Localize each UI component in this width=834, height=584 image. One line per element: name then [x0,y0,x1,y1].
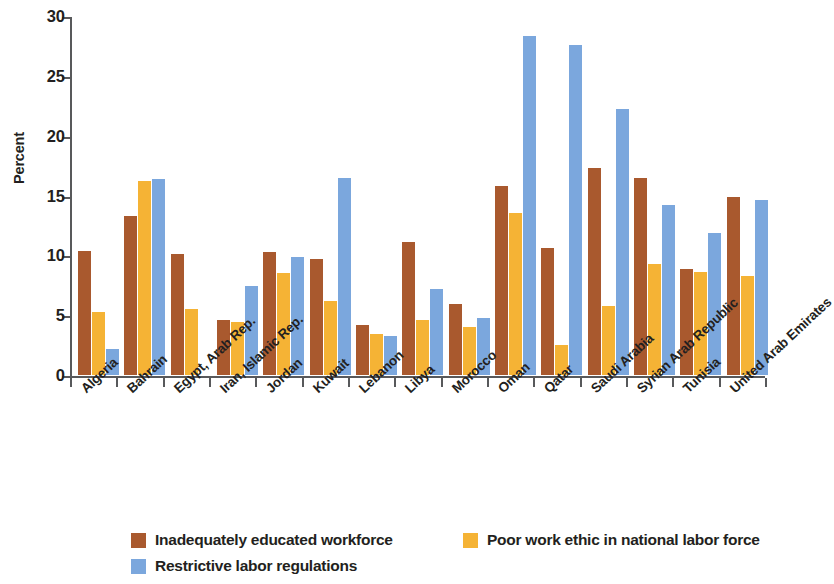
y-tick-label: 15 [47,186,65,206]
bar-group [634,16,675,375]
y-axis-line [70,17,72,377]
bar-group [310,16,351,375]
bar [449,304,462,375]
legend-item-restrictive-labor-regulations: Restrictive labor regulations [131,554,357,578]
bar [138,181,151,375]
bar [124,216,137,375]
bar-group [402,16,443,375]
legend-row: Restrictive labor regulations [131,554,765,578]
y-tick-label: 10 [47,245,65,265]
bar-group [495,16,536,375]
legend-swatch-icon [131,559,146,574]
legend-label: Poor work ethic in national labor force [487,531,760,549]
bar [338,178,351,375]
bar-group [78,16,119,375]
bar-group [356,16,397,375]
bar-group [449,16,490,375]
bar [152,179,165,375]
legend-label: Restrictive labor regulations [155,557,357,575]
bar-group [171,16,212,375]
bar [588,168,601,375]
bar [569,45,582,375]
bar-group [541,16,582,375]
bar [356,325,369,375]
x-axis-labels: AlgeriaBahrainEgypt, Arab Rep.Iran, Isla… [70,377,765,517]
bar [495,186,508,375]
legend-label: Inadequately educated workforce [155,531,393,549]
bar [310,259,323,375]
bar [648,264,661,375]
y-tick-label: 0 [56,365,65,385]
bar-group [727,16,768,375]
bar [541,248,554,375]
legend-swatch-icon [463,533,478,548]
bar-group [588,16,629,375]
y-tick-label: 25 [47,66,65,86]
bar [402,242,415,375]
y-tick-label: 5 [56,305,65,325]
legend-item-poor-work-ethic: Poor work ethic in national labor force [463,528,760,552]
legend-row: Inadequately educated workforce Poor wor… [131,528,765,552]
bar-group [124,16,165,375]
bar [171,254,184,375]
y-tick-label: 30 [47,6,65,26]
bar [509,213,522,375]
bar [78,251,91,375]
legend-swatch-icon [131,533,146,548]
y-tick-label: 20 [47,126,65,146]
bar [523,36,536,375]
y-axis-title: Percent [11,103,27,213]
x-tick-mark [765,378,767,387]
chart-legend: Inadequately educated workforce Poor wor… [131,528,765,580]
bar [616,109,629,375]
bar [430,289,443,375]
plot-area: 051015202530 [70,17,765,376]
bar [727,197,740,375]
legend-item-inadequately-educated-workforce: Inadequately educated workforce [131,528,393,552]
